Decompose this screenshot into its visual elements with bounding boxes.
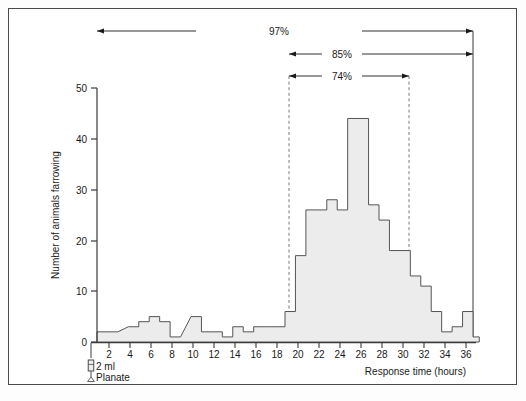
x-tick-10: 10 [187,349,199,360]
y-tick-20: 20 [76,236,88,247]
x-tick-28: 28 [376,349,388,360]
x-tick-34: 34 [439,349,451,360]
x-tick-12: 12 [208,349,220,360]
y-tick-10: 10 [76,286,88,297]
x-tick-24: 24 [334,349,346,360]
dose-product-label: Planate [96,372,130,383]
y-tick-40: 40 [76,134,88,145]
chart-page: 97% 85% 74% [0,0,526,401]
y-tick-0: 0 [81,337,87,348]
x-tick-8: 8 [169,349,175,360]
dose-volume-label: 2 ml [96,361,115,372]
syringe-icon [88,360,95,382]
x-tick-18: 18 [271,349,283,360]
x-tick-20: 20 [292,349,304,360]
annotation-74-label: 74% [332,71,352,82]
x-tick-30: 30 [397,349,409,360]
x-tick-32: 32 [418,349,430,360]
annotation-97-label: 97% [269,26,289,37]
annotation-97: 97% [97,26,473,37]
histogram-series [97,118,479,342]
annotation-74: 74% [289,71,409,82]
x-tick-2: 2 [106,349,112,360]
x-tick-26: 26 [355,349,367,360]
x-tick-22: 22 [313,349,325,360]
x-tick-14: 14 [229,349,241,360]
annotation-85: 85% [289,49,473,60]
y-tick-30: 30 [76,185,88,196]
histogram-figure: 97% 85% 74% [0,0,526,401]
x-tick-6: 6 [148,349,154,360]
x-axis-title: Response time (hours) [365,366,466,377]
y-tick-50: 50 [76,83,88,94]
histogram-path [97,118,479,342]
annotation-85-label: 85% [332,49,352,60]
x-tick-4: 4 [127,349,133,360]
x-tick-36: 36 [460,349,472,360]
y-axis: 50 40 30 20 10 0 Number of animals farro… [50,83,97,348]
x-tick-16: 16 [250,349,262,360]
y-axis-title: Number of animals farrowing [50,151,61,279]
x-axis: 2 4 6 8 10 12 14 16 18 20 22 24 26 28 30… [91,343,476,377]
